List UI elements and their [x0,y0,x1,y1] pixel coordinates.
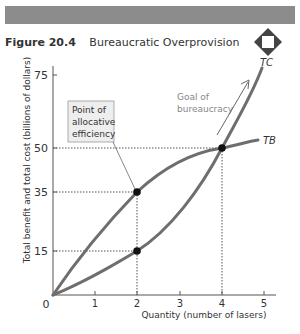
guide-lines [53,148,222,295]
tb-curve [53,140,258,295]
svg-text:efficiency: efficiency [72,129,116,139]
efficiency-annotation: Point of allocative efficiency [68,101,135,189]
svg-text:bureaucracy: bureaucracy [177,104,234,114]
x-tick-1: 1 [92,298,98,309]
tc-label: TC [260,57,273,68]
x-tick-0: 0 [43,298,50,311]
y-tick-50: 50 [34,142,48,155]
point-intersection-4 [218,144,226,152]
svg-text:Point of: Point of [72,105,107,115]
y-tick-75: 75 [34,69,48,82]
svg-text:allocative: allocative [72,117,116,127]
x-tick-4: 4 [219,298,225,309]
chart: 75 50 35 15 0 1 2 3 4 5 Quantity (number… [0,0,300,334]
x-tick-5: 5 [261,298,267,309]
svg-text:Goal of: Goal of [177,92,210,102]
point-tc-2 [133,247,141,255]
y-tick-35: 35 [34,186,48,199]
point-tb-2 [133,188,141,196]
x-tick-2: 2 [134,298,140,309]
diamond-square-icon [254,28,282,56]
goal-annotation: Goal of bureaucracy [177,80,249,135]
y-tick-15: 15 [34,245,48,258]
tb-label: TB [263,135,276,146]
x-tick-3: 3 [177,298,183,309]
x-axis-label: Quantity (number of lasers) [142,310,267,320]
y-axis-label: Total benefit and total cost (billions o… [22,57,32,264]
